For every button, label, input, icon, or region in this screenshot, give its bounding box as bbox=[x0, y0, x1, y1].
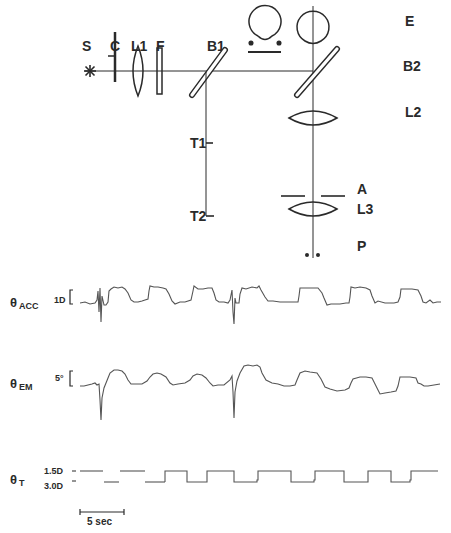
label-aperture: A bbox=[357, 181, 367, 197]
label-target2: T2 bbox=[190, 208, 207, 224]
target-level-low-label: 3.0D bbox=[44, 481, 64, 491]
fellow-eye-icon bbox=[248, 6, 281, 52]
trace-accommodation: θ ACC 1D bbox=[10, 286, 441, 324]
beamsplitter1-icon bbox=[192, 50, 225, 95]
em-label-sub: EM bbox=[19, 382, 33, 392]
target-label-sub: T bbox=[19, 478, 25, 488]
beamsplitter2-icon bbox=[297, 49, 337, 95]
label-eye: E bbox=[405, 13, 414, 29]
time-scale-label: 5 sec bbox=[87, 516, 112, 527]
acc-trace-line bbox=[80, 286, 441, 324]
source-star-icon bbox=[84, 65, 96, 77]
target-trace-line bbox=[80, 471, 438, 482]
em-scale-bracket bbox=[70, 371, 73, 386]
target-level-high-label: 1.5D bbox=[44, 466, 64, 476]
label-photodetector: P bbox=[357, 238, 366, 254]
acc-label-theta: θ bbox=[10, 295, 17, 310]
label-lens2: L2 bbox=[405, 104, 422, 120]
em-trace-line bbox=[80, 365, 440, 420]
time-scale-bar: 5 sec bbox=[80, 509, 124, 527]
acc-scale-label: 1D bbox=[54, 295, 66, 305]
label-source: S bbox=[82, 38, 91, 54]
target-label-theta: θ bbox=[10, 472, 17, 487]
em-label-theta: θ bbox=[10, 376, 17, 391]
figure-canvas: S C L1 F B1 E B2 L2 T1 T2 A L3 P bbox=[0, 0, 451, 533]
em-scale-label: 5° bbox=[55, 373, 64, 383]
acc-scale-bracket bbox=[70, 290, 73, 304]
label-beamsplitter2: B2 bbox=[403, 58, 421, 74]
label-lens3: L3 bbox=[357, 201, 374, 217]
trace-eye-movement: θ EM 5° bbox=[10, 365, 440, 420]
optical-diagram: S C L1 F B1 E B2 L2 T1 T2 A L3 P bbox=[82, 6, 422, 258]
trace-target: θ T 1.5D 3.0D bbox=[10, 466, 438, 491]
acc-label-sub: ACC bbox=[19, 301, 39, 311]
label-target1: T1 bbox=[190, 135, 207, 151]
